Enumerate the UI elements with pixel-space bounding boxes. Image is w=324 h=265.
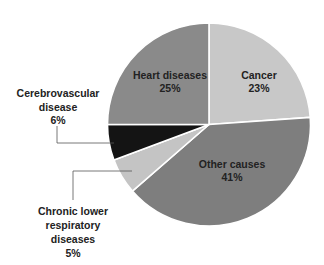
chronic-respiratory-label: Chronic lower respiratory diseases 5% [38,205,108,259]
pie-chart-svg: Heart diseases 25% Cancer 23% Other caus… [0,0,324,265]
cerebrovascular-percent: 6% [50,114,66,126]
cancer-percent: 23% [248,82,270,94]
chronic-respiratory-name-line3: diseases [51,233,96,245]
cancer-name: Cancer [241,69,277,81]
cerebrovascular-label: Cerebrovascular disease 6% [17,87,100,126]
cerebrovascular-name-line2: disease [39,101,78,113]
other-causes-percent: 41% [221,171,243,183]
heart-diseases-percent: 25% [159,82,181,94]
pie-slices [108,23,311,226]
pie-chart: Heart diseases 25% Cancer 23% Other caus… [0,0,324,265]
chronic-respiratory-percent: 5% [65,247,81,259]
chronic-respiratory-name-line1: Chronic lower [38,205,108,217]
cerebrovascular-name-line1: Cerebrovascular [17,87,100,99]
heart-diseases-name: Heart diseases [133,69,207,81]
other-causes-name: Other causes [199,158,266,170]
chronic-respiratory-name-line2: respiratory [46,219,101,231]
cerebrovascular-leader-line [57,126,114,143]
